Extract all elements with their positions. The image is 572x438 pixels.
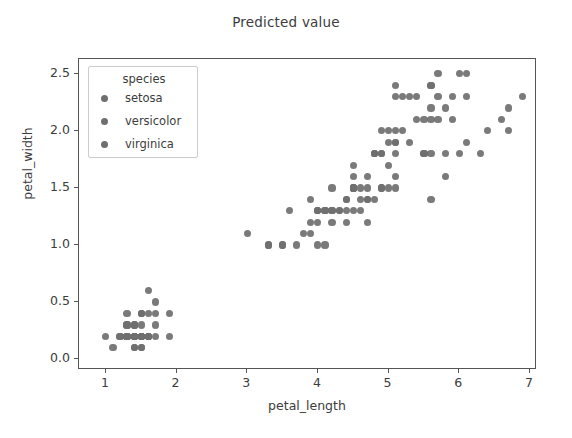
scatter-point — [328, 184, 335, 191]
x-axis-tick — [388, 369, 389, 373]
scatter-point — [350, 184, 357, 191]
scatter-point — [138, 344, 145, 351]
scatter-point — [343, 196, 350, 203]
scatter-point — [357, 207, 364, 214]
scatter-point — [364, 184, 371, 191]
x-axis-tick-label: 5 — [373, 375, 403, 390]
scatter-point — [343, 219, 350, 226]
scatter-point — [484, 127, 491, 134]
scatter-point — [420, 150, 427, 157]
scatter-point — [138, 321, 145, 328]
scatter-point — [343, 207, 350, 214]
legend-item-label: setosa — [125, 91, 163, 105]
scatter-point — [378, 127, 385, 134]
scatter-point — [109, 344, 116, 351]
scatter-point — [519, 93, 526, 100]
scatter-point — [392, 139, 399, 146]
x-axis-tick-label: 6 — [443, 375, 473, 390]
scatter-point — [434, 93, 441, 100]
scatter-point — [427, 116, 434, 123]
scatter-point — [442, 150, 449, 157]
scatter-point — [350, 207, 357, 214]
scatter-point — [152, 298, 159, 305]
scatter-point — [406, 139, 413, 146]
scatter-point — [434, 70, 441, 77]
scatter-point — [463, 70, 470, 77]
scatter-point — [364, 173, 371, 180]
x-axis-tick — [246, 369, 247, 373]
scatter-point — [505, 104, 512, 111]
scatter-point — [399, 93, 406, 100]
scatter-point — [427, 196, 434, 203]
scatter-point — [427, 82, 434, 89]
scatter-point — [505, 127, 512, 134]
y-axis-tick — [74, 73, 78, 74]
scatter-point — [392, 184, 399, 191]
scatter-point — [449, 116, 456, 123]
scatter-point — [328, 219, 335, 226]
scatter-point — [145, 333, 152, 340]
legend-item-label: virginica — [125, 137, 174, 151]
x-axis-tick — [317, 369, 318, 373]
y-axis-tick — [74, 244, 78, 245]
scatter-point — [385, 127, 392, 134]
scatter-point — [123, 321, 130, 328]
scatter-point — [413, 116, 420, 123]
scatter-point — [392, 82, 399, 89]
scatter-point — [463, 139, 470, 146]
y-axis-tick — [74, 358, 78, 359]
scatter-point — [131, 333, 138, 340]
legend-item-label: versicolor — [125, 114, 181, 128]
x-axis-tick — [105, 369, 106, 373]
scatter-point — [123, 333, 130, 340]
scatter-point — [244, 230, 251, 237]
page-title: Predicted value — [0, 14, 572, 30]
scatter-point — [385, 139, 392, 146]
scatter-point — [378, 150, 385, 157]
scatter-point — [166, 333, 173, 340]
scatter-point — [307, 196, 314, 203]
scatter-point — [321, 241, 328, 248]
scatter-point — [321, 207, 328, 214]
scatter-point — [364, 219, 371, 226]
x-axis-tick-label: 3 — [231, 375, 261, 390]
legend-marker-icon — [101, 118, 108, 125]
x-axis-tick-label: 1 — [90, 375, 120, 390]
scatter-point — [456, 150, 463, 157]
scatter-point — [350, 173, 357, 180]
scatter-point — [293, 241, 300, 248]
y-axis-tick-label: 1.0 — [26, 236, 70, 251]
scatter-point — [336, 207, 343, 214]
matplotlib-figure: Predicted value 1234567 0.00.51.01.52.02… — [0, 0, 572, 438]
scatter-point — [357, 184, 364, 191]
y-axis-tick — [74, 187, 78, 188]
scatter-point — [138, 333, 145, 340]
legend-marker-icon — [101, 141, 108, 148]
legend-marker-icon — [101, 95, 108, 102]
scatter-point — [152, 321, 159, 328]
scatter-point — [102, 333, 109, 340]
scatter-point — [265, 241, 272, 248]
scatter-point — [413, 93, 420, 100]
legend-title: species — [89, 72, 199, 86]
scatter-point — [498, 116, 505, 123]
scatter-point — [449, 93, 456, 100]
x-axis-tick — [458, 369, 459, 373]
legend-item-virginica[interactable]: virginica — [97, 135, 197, 155]
y-axis-label: petal_width — [20, 104, 35, 224]
legend-item-setosa[interactable]: setosa — [97, 89, 197, 109]
scatter-point — [434, 116, 441, 123]
x-axis-tick-label: 2 — [161, 375, 191, 390]
scatter-point — [300, 230, 307, 237]
scatter-point — [350, 162, 357, 169]
legend-item-versicolor[interactable]: versicolor — [97, 112, 197, 132]
x-axis-tick — [176, 369, 177, 373]
scatter-point — [456, 70, 463, 77]
scatter-point — [392, 150, 399, 157]
x-axis-tick — [529, 369, 530, 373]
scatter-point — [442, 173, 449, 180]
scatter-point — [152, 333, 159, 340]
scatter-point — [166, 310, 173, 317]
scatter-point — [392, 173, 399, 180]
scatter-point — [477, 150, 484, 157]
